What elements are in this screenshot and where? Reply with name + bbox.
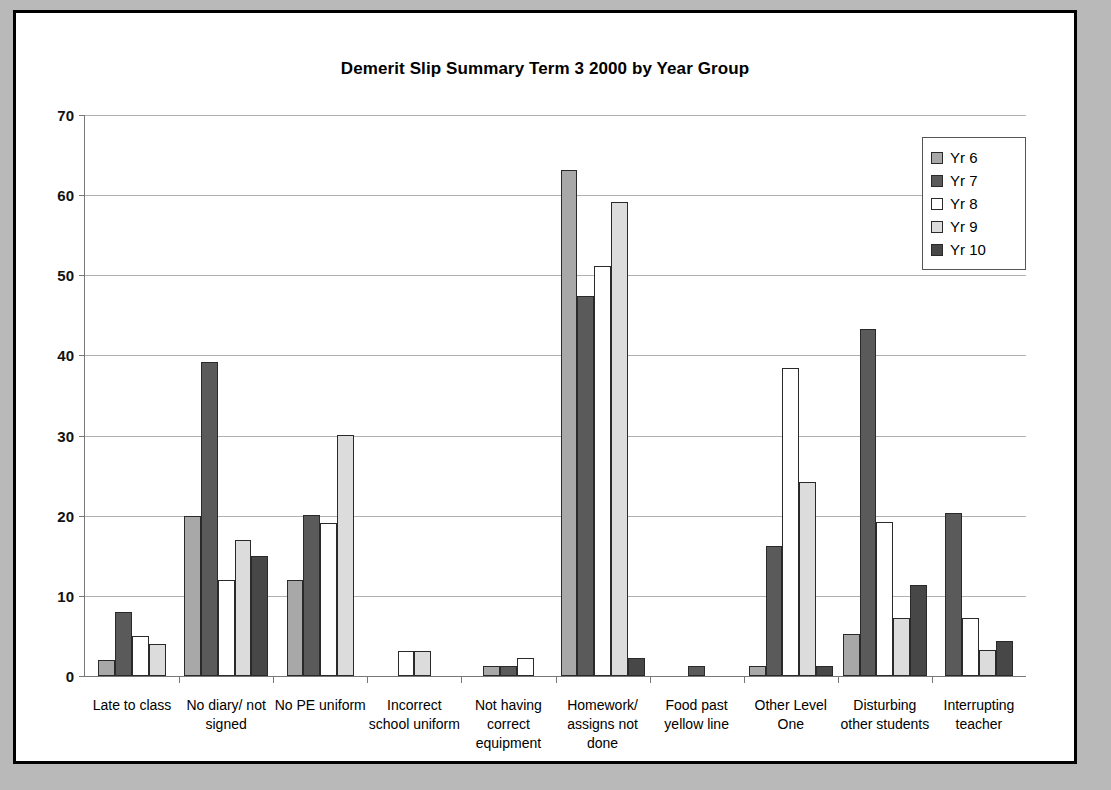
y-axis-tick: [79, 676, 85, 677]
bars: [98, 115, 165, 676]
legend-item: Yr 9: [931, 215, 1019, 238]
bar-yr-9: [611, 202, 628, 676]
bars: [483, 115, 533, 676]
bar-yr-8: [876, 522, 893, 676]
y-axis-tick-label: 0: [66, 668, 74, 685]
bar-group: [838, 115, 932, 676]
bar-yr-9: [414, 651, 431, 676]
bar-yr-10: [628, 658, 645, 676]
bars: [749, 115, 833, 676]
legend-label: Yr 7: [950, 172, 978, 189]
x-axis-category-label: Disturbing other students: [838, 696, 932, 734]
legend-swatch-icon: [931, 175, 943, 187]
bar-yr-8: [398, 651, 415, 676]
bar-yr-8: [517, 658, 534, 676]
x-axis-separator: [744, 676, 745, 683]
y-axis-tick-label: 40: [57, 347, 74, 364]
bar-yr-9: [979, 650, 996, 676]
bar-group: [179, 115, 273, 676]
bar-group: [85, 115, 179, 676]
bars: [287, 115, 354, 676]
x-axis-category-label: Incorrect school uniform: [367, 696, 461, 734]
legend-swatch-icon: [931, 244, 943, 256]
legend-item: Yr 10: [931, 238, 1019, 261]
x-axis-separator: [273, 676, 274, 683]
bar-yr-8: [132, 636, 149, 676]
legend-item: Yr 8: [931, 192, 1019, 215]
bar-yr-8: [782, 368, 799, 676]
bar-yr-6: [287, 580, 304, 676]
plot-area: 010203040506070 Late to classNo diary/ n…: [84, 115, 1026, 677]
legend-label: Yr 6: [950, 149, 978, 166]
bar-yr-7: [945, 513, 962, 676]
x-axis-separator: [367, 676, 368, 683]
legend-swatch-icon: [931, 221, 943, 233]
x-axis-category-label: Late to class: [85, 696, 179, 715]
bar-group: [650, 115, 744, 676]
bar-yr-9: [893, 618, 910, 677]
bar-yr-8: [594, 266, 611, 676]
bar-group: [461, 115, 555, 676]
bars: [398, 115, 432, 676]
bar-yr-7: [201, 362, 218, 676]
x-axis-category-label: No diary/ not signed: [179, 696, 273, 734]
bar-yr-7: [688, 666, 705, 676]
x-axis-separator: [461, 676, 462, 683]
bar-yr-6: [749, 666, 766, 676]
bar-yr-10: [816, 666, 833, 676]
bar-yr-9: [149, 644, 166, 676]
bar-yr-6: [483, 666, 500, 676]
legend-swatch-icon: [931, 152, 943, 164]
x-axis-separator: [179, 676, 180, 683]
bar-yr-6: [843, 634, 860, 676]
legend-label: Yr 8: [950, 195, 978, 212]
bar-group: [556, 115, 650, 676]
y-axis-tick-label: 20: [57, 507, 74, 524]
x-axis-category-label: Not having correct equipment: [461, 696, 555, 753]
bar-yr-8: [962, 618, 979, 677]
bars: [561, 115, 645, 676]
bars: [184, 115, 268, 676]
bar-yr-7: [766, 546, 783, 676]
bar-yr-8: [218, 580, 235, 676]
x-axis-separator: [838, 676, 839, 683]
bars: [688, 115, 705, 676]
x-axis-category-label: No PE uniform: [273, 696, 367, 715]
bar-yr-6: [561, 170, 578, 677]
bar-yr-6: [184, 516, 201, 676]
bar-yr-10: [251, 556, 268, 676]
legend-label: Yr 9: [950, 218, 978, 235]
x-axis-separator: [932, 676, 933, 683]
bar-yr-7: [577, 296, 594, 676]
y-axis-tick-label: 50: [57, 267, 74, 284]
bar-yr-10: [996, 641, 1013, 676]
x-axis-category-label: Food past yellow line: [650, 696, 744, 734]
bar-yr-7: [115, 612, 132, 676]
bar-yr-8: [320, 523, 337, 676]
legend-item: Yr 6: [931, 146, 1019, 169]
bar-yr-9: [337, 435, 354, 676]
bar-yr-9: [799, 482, 816, 676]
legend-swatch-icon: [931, 198, 943, 210]
x-axis-category-label: Interrupting teacher: [932, 696, 1026, 734]
legend-label: Yr 10: [950, 241, 986, 258]
bar-group: [367, 115, 461, 676]
bar-yr-9: [235, 540, 252, 676]
bar-yr-7: [860, 329, 877, 676]
legend: Yr 6Yr 7Yr 8Yr 9Yr 10: [922, 137, 1026, 270]
bar-yr-10: [910, 585, 927, 676]
x-axis-category-label: Homework/ assigns not done: [556, 696, 650, 753]
bar-yr-7: [500, 666, 517, 676]
bars: [843, 115, 927, 676]
y-axis-tick-label: 30: [57, 427, 74, 444]
bar-group: [744, 115, 838, 676]
x-axis-separator: [556, 676, 557, 683]
legend-item: Yr 7: [931, 169, 1019, 192]
y-axis-tick-label: 10: [57, 587, 74, 604]
x-axis-separator: [650, 676, 651, 683]
chart-title: Demerit Slip Summary Term 3 2000 by Year…: [16, 59, 1074, 79]
chart-frame: Demerit Slip Summary Term 3 2000 by Year…: [13, 10, 1077, 764]
y-axis-tick-label: 70: [57, 107, 74, 124]
bar-group: [273, 115, 367, 676]
bar-yr-6: [98, 660, 115, 676]
